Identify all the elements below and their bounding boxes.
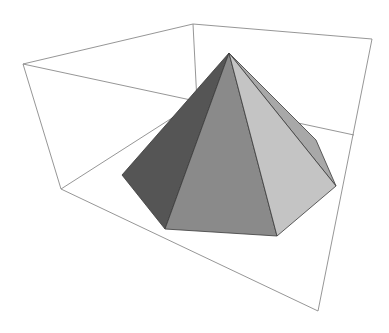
- box-edge-top-left-to-top-back: [23, 24, 193, 64]
- box-edge-top-back-to-top-right: [193, 24, 372, 39]
- box-edge-top-left-to-bottom-left: [23, 64, 61, 189]
- plot-svg: [0, 0, 389, 333]
- hexagonal-pyramid: [122, 53, 336, 236]
- pyramid-3d-plot: [0, 0, 389, 333]
